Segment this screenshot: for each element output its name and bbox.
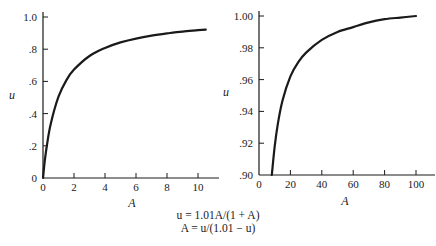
y-tick-label: .90 bbox=[239, 169, 253, 181]
y-tick-label: .4 bbox=[29, 108, 38, 120]
y-tick-label: 0 bbox=[32, 172, 38, 184]
curve-u-vs-A bbox=[43, 30, 206, 178]
y-tick-label: 1.00 bbox=[234, 10, 254, 22]
chart-left: 02468100.2.4.6.81.0uA bbox=[9, 11, 219, 210]
x-tick-label: 10 bbox=[193, 181, 205, 193]
x-axis-label: A bbox=[340, 194, 349, 208]
y-tick-label: .98 bbox=[239, 42, 253, 54]
y-tick-label: 1.0 bbox=[23, 11, 37, 23]
chart-right: 020406080100.90.92.94.96.981.00uA bbox=[223, 10, 435, 208]
equation-line-2: A = u/(1.01 − u) bbox=[0, 222, 436, 235]
y-tick-label: .6 bbox=[29, 75, 38, 87]
x-axis-label: A bbox=[127, 196, 136, 210]
x-tick-label: 80 bbox=[379, 178, 391, 190]
x-tick-label: 4 bbox=[102, 181, 108, 193]
x-tick-label: 0 bbox=[40, 181, 46, 193]
x-tick-label: 2 bbox=[71, 181, 77, 193]
y-tick-label: .2 bbox=[29, 140, 37, 152]
equation-line-1: u = 1.01A/(1 + A) bbox=[0, 209, 436, 222]
y-tick-label: .8 bbox=[29, 43, 38, 55]
y-tick-label: .96 bbox=[239, 74, 253, 86]
x-tick-label: 60 bbox=[348, 178, 360, 190]
x-tick-label: 20 bbox=[285, 178, 297, 190]
y-tick-label: .94 bbox=[239, 105, 253, 117]
y-tick-label: .92 bbox=[239, 137, 253, 149]
x-tick-label: 100 bbox=[408, 178, 425, 190]
y-axis-label: u bbox=[9, 88, 15, 102]
curve-u-vs-A bbox=[272, 16, 416, 175]
y-axis-label: u bbox=[223, 85, 229, 99]
x-tick-label: 0 bbox=[256, 178, 262, 190]
x-tick-label: 40 bbox=[316, 178, 328, 190]
x-tick-label: 6 bbox=[133, 181, 139, 193]
x-tick-label: 8 bbox=[164, 181, 170, 193]
